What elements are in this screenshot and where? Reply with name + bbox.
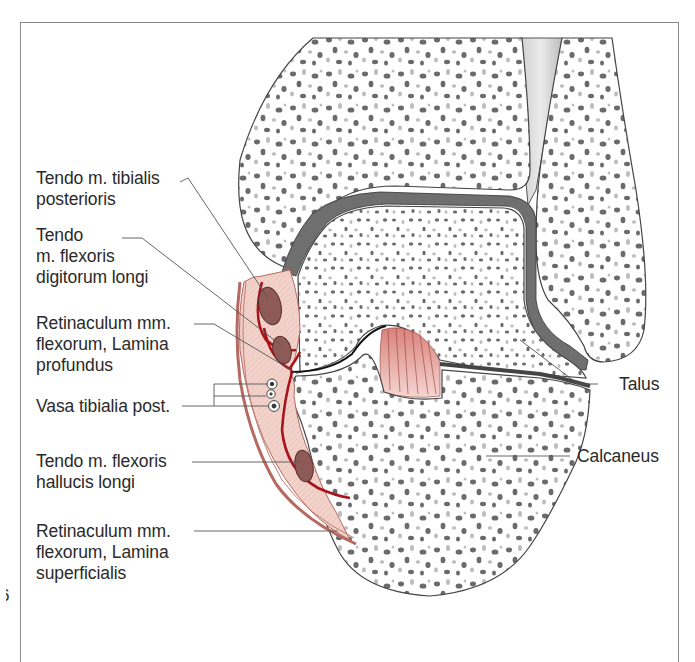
label-flexor-digitorum-longus: Tendom. flexorisdigitorum longi <box>36 225 148 288</box>
label-retinaculum-profundus: Retinaculum mm.flexorum, Laminaprofundus <box>36 313 171 376</box>
label-tibialis-posterior: Tendo m. tibialisposterioris <box>36 168 160 210</box>
label-retinaculum-superficialis: Retinaculum mm.flexorum, Laminasuperfici… <box>36 521 171 584</box>
label-talus: Talus <box>619 374 659 395</box>
label-flexor-hallucis-longus: Tendo m. flexorishallucis longi <box>36 451 167 493</box>
fibula-bone <box>536 38 646 362</box>
label-calcaneus: Calcaneus <box>577 446 659 467</box>
label-vasa-tibialia: Vasa tibialia post. <box>36 396 170 417</box>
